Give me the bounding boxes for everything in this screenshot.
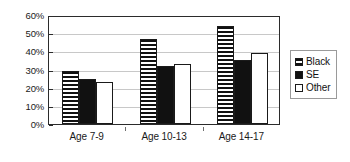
y-axis-tick-mark [49,89,53,90]
bar-black [217,26,234,124]
chart-legend: BlackSEOther [290,50,337,99]
y-axis-tick-label: 60% [14,11,44,21]
legend-item-label: Other [306,82,331,93]
legend-item-label: SE [306,69,319,80]
bar-group [140,17,191,124]
legend-item-label: Black [306,56,330,67]
bar-se [234,60,251,124]
y-axis-tick-label: 50% [14,29,44,39]
legend-item[interactable]: Black [295,55,331,68]
bar-chart: 0%10%20%30%40%50%60% Age 7-9Age 10-13Age… [0,0,350,162]
plot-area [48,16,280,125]
bar-black [140,39,157,124]
y-axis-tick-mark [49,107,53,108]
y-axis: 0%10%20%30%40%50%60% [10,0,44,162]
x-axis-tick-label: Age 14-17 [196,131,287,143]
bar-se [79,79,96,124]
x-axis: Age 7-9Age 10-13Age 14-17 [48,131,280,151]
legend-swatch-icon [295,84,303,92]
legend-item[interactable]: SE [295,68,331,81]
bar-group [217,17,268,124]
y-axis-tick-mark [49,71,53,72]
y-axis-tick-label: 40% [14,47,44,57]
bar-black [62,71,79,124]
y-axis-tick-label: 30% [14,66,44,76]
bar-group [62,17,113,124]
y-axis-tick-mark [49,125,53,126]
y-axis-tick-label: 0% [14,120,44,130]
bar-other [251,53,268,124]
y-axis-tick-label: 10% [14,102,44,112]
legend-swatch-icon [295,58,303,66]
legend-swatch-icon [295,71,303,79]
y-axis-tick-mark [49,34,53,35]
legend-item[interactable]: Other [295,81,331,94]
y-axis-tick-mark [49,52,53,53]
bar-se [157,66,174,124]
bar-other [174,64,191,124]
bar-other [96,82,113,124]
y-axis-tick-label: 20% [14,84,44,94]
